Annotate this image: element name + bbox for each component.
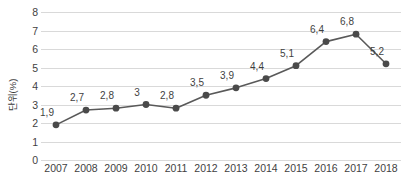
data-point-label: 6,4 [310, 25, 324, 35]
y-axis-tick: 3 [32, 99, 38, 110]
data-point-marker [53, 121, 60, 128]
data-point-marker [323, 38, 330, 45]
data-point-marker [83, 107, 90, 114]
data-point-label: 6,8 [340, 17, 354, 27]
data-point-marker [383, 60, 390, 67]
data-point-label: 2,8 [100, 91, 114, 101]
data-point-marker [233, 84, 240, 91]
data-point-label: 4,4 [250, 62, 264, 72]
x-axis-tick: 2018 [374, 163, 397, 174]
y-axis-title-text: 단위(%) [5, 79, 19, 112]
data-point-marker [263, 75, 270, 82]
line-chart: 단위(%) 012345678 1,92,72,832,83,53,94,45,… [0, 0, 411, 190]
data-point-label: 5,1 [280, 49, 294, 59]
x-axis-tick: 2013 [224, 163, 247, 174]
data-point-marker [203, 92, 210, 99]
data-point-label: 2,7 [70, 93, 84, 103]
data-point-label: 3,9 [220, 71, 234, 81]
y-axis-tick: 5 [32, 62, 38, 73]
y-axis-tick: 8 [32, 7, 38, 18]
data-point-label: 3,5 [190, 78, 204, 88]
data-point-marker [173, 105, 180, 112]
y-axis-tick: 0 [32, 155, 38, 166]
gridline [41, 160, 401, 161]
data-point-marker [293, 62, 300, 69]
x-axis-tick: 2011 [165, 163, 188, 174]
data-point-label: 2,8 [160, 91, 174, 101]
y-axis-tick: 6 [32, 44, 38, 55]
data-point-label: 1,9 [40, 108, 54, 118]
y-axis-tick: 2 [32, 118, 38, 129]
y-axis-tick: 7 [32, 25, 38, 36]
x-axis-tick: 2017 [344, 163, 367, 174]
data-point-marker [143, 101, 150, 108]
x-axis-tick: 2008 [74, 163, 97, 174]
x-axis-tick: 2010 [134, 163, 157, 174]
data-point-label: 3 [134, 88, 140, 98]
x-axis-tick-labels: 2007200820092010201120122013201420152016… [41, 163, 401, 183]
x-axis-tick: 2007 [44, 163, 67, 174]
x-axis-tick: 2009 [104, 163, 127, 174]
plot-area: 1,92,72,832,83,53,94,45,16,46,85,2 [41, 12, 401, 160]
data-point-marker [353, 31, 360, 38]
y-axis-title: 단위(%) [0, 0, 24, 190]
x-axis-tick: 2014 [254, 163, 277, 174]
series-line-and-markers [41, 12, 401, 160]
y-axis-tick: 4 [32, 81, 38, 92]
data-point-label: 5,2 [370, 47, 384, 57]
x-axis-tick: 2015 [284, 163, 307, 174]
x-axis-tick: 2012 [194, 163, 217, 174]
y-axis-tick-labels: 012345678 [22, 12, 38, 160]
x-axis-tick: 2016 [314, 163, 337, 174]
y-axis-tick: 1 [32, 136, 38, 147]
data-point-marker [113, 105, 120, 112]
